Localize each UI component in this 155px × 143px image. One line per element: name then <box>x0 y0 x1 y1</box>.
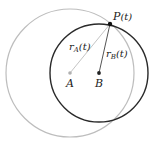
diagram-canvas: P(t) rA(t) rB(t) A B <box>0 0 155 143</box>
point-b-dot <box>97 71 101 75</box>
point-p-label-arg: (t) <box>120 11 132 22</box>
radius-b-label-arg: (t) <box>116 48 128 59</box>
point-p-dot <box>108 22 112 26</box>
radius-a-label-arg: (t) <box>79 41 91 52</box>
point-p-label: P(t) <box>112 10 132 23</box>
point-b-label: B <box>94 77 103 90</box>
point-a-label: A <box>65 77 74 90</box>
point-a-dot <box>68 71 72 75</box>
radius-b-label: rB(t) <box>106 48 128 61</box>
